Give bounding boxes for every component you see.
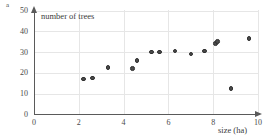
data-point — [229, 86, 234, 91]
data-point — [135, 58, 140, 63]
x-tick-label: 6 — [158, 119, 178, 127]
gridline-horizontal — [34, 31, 258, 32]
x-axis-title: size (ha) — [218, 126, 247, 135]
data-point — [247, 36, 252, 41]
y-tick-label: 50 — [6, 7, 28, 15]
x-axis-arrow-icon — [255, 111, 262, 117]
data-point — [149, 50, 154, 55]
y-tick-label: 10 — [6, 90, 28, 98]
gridline-horizontal — [34, 52, 258, 53]
x-tick-label: 4 — [114, 119, 134, 127]
y-tick-label: 20 — [6, 69, 28, 77]
gridline-vertical — [124, 10, 125, 115]
data-point — [90, 76, 95, 81]
y-axis-title: number of trees — [41, 12, 94, 21]
data-point — [106, 65, 111, 70]
data-point — [202, 49, 207, 54]
y-tick-label: 0 — [6, 111, 28, 119]
y-tick-label: 30 — [6, 49, 28, 57]
gridline-vertical — [213, 10, 214, 115]
data-point — [81, 77, 86, 82]
figure-scatter-plot: a 50 40 30 20 10 0 0 2 4 6 8 10 number — [0, 0, 274, 137]
x-axis-line — [34, 114, 256, 115]
data-point — [189, 52, 194, 57]
x-tick-label: 2 — [69, 119, 89, 127]
x-tick-label: 0 — [24, 119, 44, 127]
gridline-vertical — [168, 10, 169, 115]
data-point — [130, 66, 135, 71]
data-point — [157, 50, 162, 55]
gridline-horizontal — [34, 73, 258, 74]
y-axis-arrow-icon — [31, 6, 37, 13]
x-tick-label: 10 — [248, 119, 268, 127]
gridline-horizontal — [34, 94, 258, 95]
gridline-vertical — [79, 10, 80, 115]
data-point — [215, 39, 220, 44]
y-axis-line — [34, 12, 35, 115]
plot-area: 50 40 30 20 10 0 0 2 4 6 8 10 number of … — [0, 0, 274, 137]
gridline-vertical — [258, 10, 259, 115]
y-tick-label: 40 — [6, 28, 28, 36]
